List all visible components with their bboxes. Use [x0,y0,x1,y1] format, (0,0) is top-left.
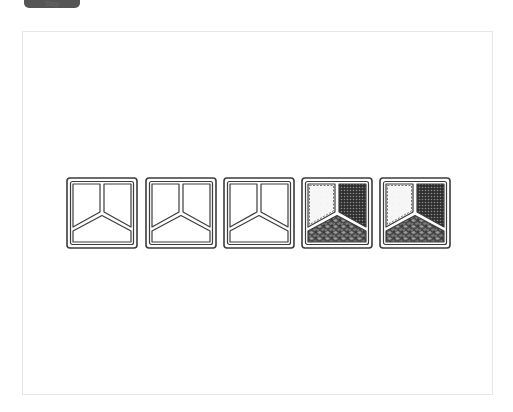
filled-tray-icon [301,177,373,249]
empty-tray-icon [66,177,138,249]
tray-1-empty [66,177,138,249]
top-tab-button[interactable]: Step [24,0,80,8]
tray-5-filled [379,177,451,249]
top-tab-label: Step [45,0,59,7]
tray-3-empty [223,177,295,249]
tray-4-filled [301,177,373,249]
filled-tray-icon [379,177,451,249]
empty-tray-icon [223,177,295,249]
tray-2-empty [145,177,217,249]
empty-tray-icon [145,177,217,249]
